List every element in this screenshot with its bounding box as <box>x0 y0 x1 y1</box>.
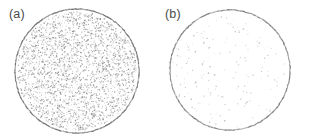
circle-outline <box>15 9 139 134</box>
figure-container: (a) (b) <box>0 0 309 138</box>
panel-a: (a) <box>0 0 155 138</box>
panel-b: (b) <box>155 0 309 138</box>
speckle-points <box>172 16 285 127</box>
circle-outline <box>170 10 290 131</box>
speckle-points <box>17 11 136 130</box>
panel-b-label: (b) <box>165 8 181 21</box>
panel-a-label: (a) <box>9 8 25 21</box>
